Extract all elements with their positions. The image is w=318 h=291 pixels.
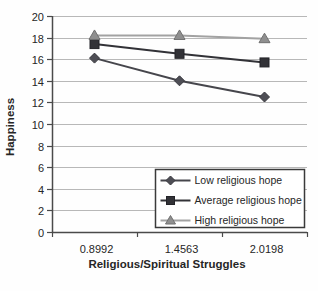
y-axis-title: Happiness [4,98,16,156]
x-axis-title: Religious/Spiritual Struggles [88,258,245,270]
chart-figure: 024681012141618200.89921.45632.0198 Low … [0,0,318,291]
y-tick-label: 0 [38,227,44,239]
data-point [175,76,185,86]
y-tick-label: 14 [32,76,44,88]
x-tick-label: 0.8992 [80,243,114,255]
y-tick-label: 8 [38,141,44,153]
legend-entry-marker [167,197,175,205]
legend-entry-label: High religious hope [195,214,285,226]
data-point [90,53,100,63]
y-tick-label: 20 [32,11,44,23]
y-tick-label: 10 [32,119,44,131]
data-point [260,92,270,102]
y-tick-label: 2 [38,205,44,217]
legend: Low religious hopeAverage religious hope… [156,170,305,228]
happiness-line-chart: 024681012141618200.89921.45632.0198 Low … [0,0,318,291]
x-tick-label: 1.4563 [165,243,199,255]
legend-entry-label: Low religious hope [195,174,283,186]
x-tick-label: 2.0198 [250,243,284,255]
y-tick-label: 4 [38,184,44,196]
data-point [260,58,269,67]
data-point [175,49,184,58]
y-tick-label: 18 [32,33,44,45]
legend-entry-label: Average religious hope [195,194,302,206]
y-tick-label: 12 [32,97,44,109]
data-point [90,40,99,49]
y-tick-label: 16 [32,54,44,66]
y-tick-label: 6 [38,162,44,174]
